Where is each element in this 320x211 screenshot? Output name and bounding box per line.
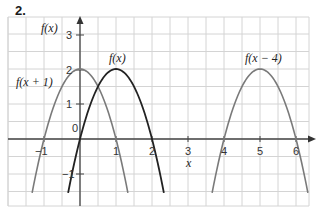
x-axis-arrow-icon xyxy=(308,136,316,143)
x-tick-label: 5 xyxy=(257,145,263,157)
x-tick-label: 4 xyxy=(221,145,227,157)
y-tick-label: 2 xyxy=(66,64,72,76)
y-tick-label: −1 xyxy=(62,168,75,180)
x-tick-label: 6 xyxy=(293,145,299,157)
label-f-x-minus-4: f(x − 4) xyxy=(245,51,282,65)
x-tick-label: 0 xyxy=(72,122,78,134)
y-tick-label: 1 xyxy=(66,98,72,110)
x-axis-label: x xyxy=(185,156,192,170)
y-tick-label: 3 xyxy=(66,29,72,41)
x-tick-label: 2 xyxy=(149,145,155,157)
grid xyxy=(8,17,309,206)
y-axis-label: f(x) xyxy=(41,21,58,35)
x-tick-label: −1 xyxy=(35,145,48,157)
label-f-x-plus-1: f(x + 1) xyxy=(16,75,53,89)
graph: −1 0 1 2 3 4 5 6 3 2 1 −1 f(x) x f(x + 1… xyxy=(0,0,320,211)
x-tick-label: 1 xyxy=(113,145,119,157)
label-f-x: f(x) xyxy=(109,51,126,65)
